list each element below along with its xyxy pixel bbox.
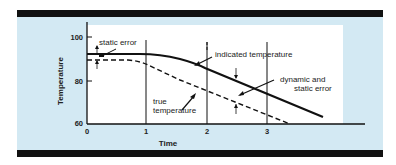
x-tick-3: 3: [265, 127, 269, 136]
x-axis-title: Time: [159, 139, 178, 148]
y-tick-100: 100: [70, 33, 83, 42]
y-axis-title: Temperature: [56, 57, 65, 105]
label-temperature: temperature: [153, 106, 197, 115]
label-true: true: [153, 97, 167, 106]
y-tick-60: 60: [75, 119, 83, 128]
x-tick-0: 0: [85, 127, 89, 136]
label-static-error: static error: [99, 38, 137, 47]
x-tick-2: 2: [205, 127, 209, 136]
temperature-chart: 100 80 60 0 1 2 3 Time Temperature stati…: [0, 0, 396, 165]
x-tick-1: 1: [144, 127, 148, 136]
label-dynamic-and: dynamic and: [280, 75, 325, 84]
label-static-error-2: static error: [294, 84, 332, 93]
y-tick-80: 80: [75, 77, 83, 86]
label-indicated-temperature: indicated temperature: [215, 50, 293, 59]
